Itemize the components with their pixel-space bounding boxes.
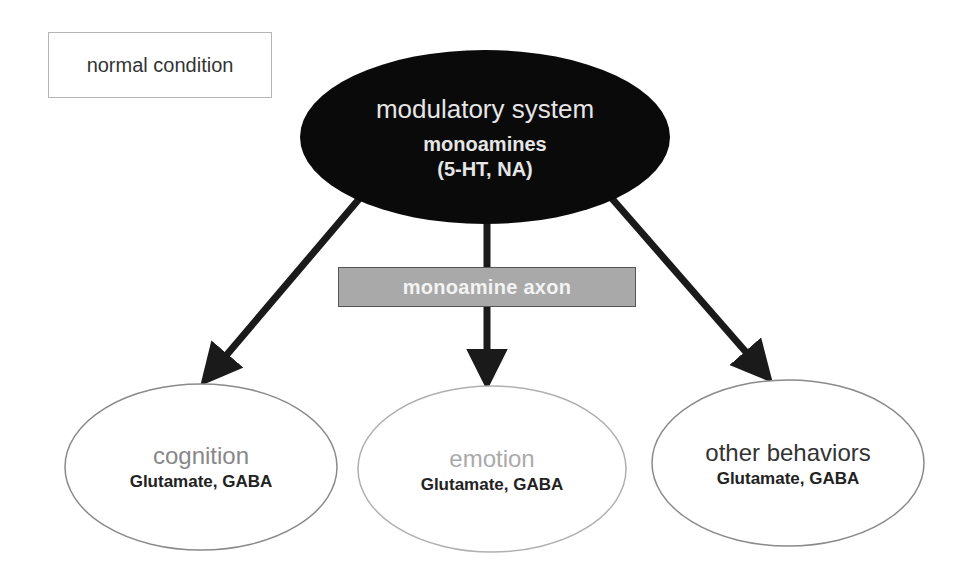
emotion-detail: Glutamate, GABA [421, 475, 564, 495]
condition-label: normal condition [48, 32, 272, 98]
monoamine-axon-label: monoamine axon [338, 267, 636, 307]
condition-label-text: normal condition [87, 54, 234, 77]
cognition-title: cognition [153, 442, 249, 470]
other-behaviors-title: other behaviors [705, 439, 870, 467]
modulatory-system-node: modulatory system monoamines (5-HT, NA) [300, 50, 670, 225]
axon-label-text: monoamine axon [403, 276, 572, 299]
source-detail: (5-HT, NA) [437, 158, 533, 181]
emotion-title: emotion [449, 445, 534, 473]
other-behaviors-node: other behaviors Glutamate, GABA [652, 380, 924, 547]
cognition-detail: Glutamate, GABA [130, 472, 273, 492]
source-title: modulatory system [376, 94, 594, 125]
emotion-node: emotion Glutamate, GABA [358, 386, 626, 553]
cognition-node: cognition Glutamate, GABA [65, 384, 337, 550]
source-subtitle: monoamines [423, 133, 546, 156]
other-behaviors-detail: Glutamate, GABA [717, 469, 860, 489]
